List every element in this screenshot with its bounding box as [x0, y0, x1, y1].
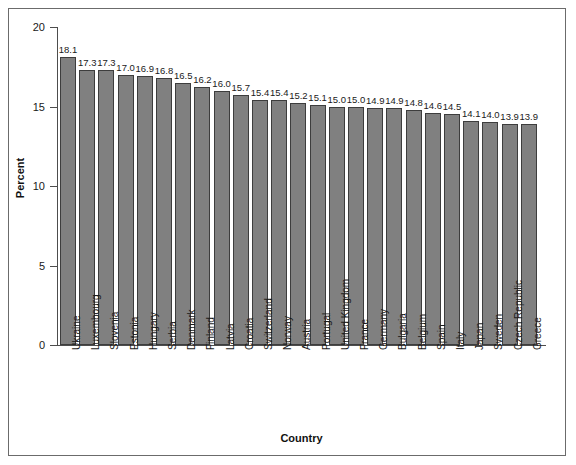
- x-axis-category-label: Germany: [379, 309, 389, 350]
- bar: [444, 114, 460, 345]
- x-axis-category-label: France: [360, 319, 370, 350]
- bar: [137, 76, 153, 345]
- bar: [233, 95, 249, 345]
- bar: [482, 122, 498, 345]
- x-axis-category-label: Czech Republic: [514, 280, 524, 350]
- x-axis-category-label: Austria: [302, 319, 312, 350]
- bar: [463, 121, 479, 345]
- bar: [406, 110, 422, 345]
- y-axis-tick-label: 15: [5, 102, 45, 113]
- y-axis-tick: [50, 345, 57, 346]
- y-axis-tick: [50, 186, 57, 187]
- y-axis-tick: [50, 27, 57, 28]
- x-axis-category-label: Sweden: [494, 314, 504, 350]
- x-axis-category-label: Japan: [475, 323, 485, 350]
- x-axis-category-label: Slovenia: [110, 312, 120, 350]
- x-axis-category-label: Finland: [206, 317, 216, 350]
- y-axis-tick: [50, 266, 57, 267]
- x-axis-category-label: Norway: [283, 316, 293, 350]
- x-axis-category-label: Ukraine: [72, 316, 82, 350]
- x-axis-category-label: United Kingdom: [341, 279, 351, 350]
- x-axis-category-label: Greece: [533, 317, 543, 350]
- x-axis-category-label: Estonia: [130, 317, 140, 350]
- x-axis-category-label: Serbia: [168, 321, 178, 350]
- plot-area: Percent Country 05101520 18.117.317.317.…: [0, 0, 576, 465]
- x-axis-category-label: Portugal: [322, 313, 332, 350]
- bar: [194, 87, 210, 345]
- bar: [118, 75, 134, 345]
- x-axis-category-label: Latvia: [226, 323, 236, 350]
- bar: [425, 113, 441, 345]
- y-axis-tick-label: 20: [5, 22, 45, 33]
- y-axis-title: Percent: [14, 138, 26, 218]
- y-axis-tick-label: 5: [5, 261, 45, 272]
- bar-value-label: 18.1: [56, 45, 80, 55]
- x-axis-category-label: Italy: [456, 332, 466, 350]
- x-axis-category-label: Luxembourg: [91, 294, 101, 350]
- bar-value-label: 13.9: [517, 112, 541, 122]
- x-axis-category-label: Denmark: [187, 309, 197, 350]
- x-axis-category-label: Bulgaria: [398, 313, 408, 350]
- x-axis-category-label: Spain: [437, 324, 447, 350]
- bar: [60, 57, 76, 345]
- x-axis-category-label: Hungary: [149, 312, 159, 350]
- bar: [156, 78, 172, 345]
- bar: [290, 103, 306, 345]
- x-axis-category-label: Belgium: [418, 314, 428, 350]
- bar: [310, 105, 326, 345]
- x-axis-category-label: Switzerland: [264, 298, 274, 350]
- x-axis-title: Country: [57, 432, 546, 444]
- y-axis-line: [57, 27, 58, 345]
- bar: [214, 91, 230, 345]
- x-axis-category-label: Croatia: [245, 318, 255, 350]
- y-axis-tick: [50, 107, 57, 108]
- y-axis-tick-label: 0: [5, 340, 45, 351]
- bar: [175, 83, 191, 345]
- chart-figure: Percent Country 05101520 18.117.317.317.…: [0, 0, 576, 465]
- y-axis-tick-label: 10: [5, 181, 45, 192]
